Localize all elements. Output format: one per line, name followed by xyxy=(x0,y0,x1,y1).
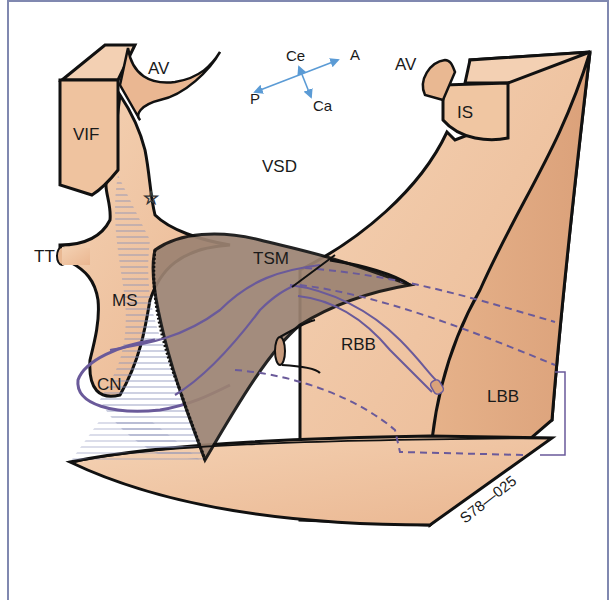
label-rbb: RBB xyxy=(341,335,376,354)
label-tt: TT xyxy=(34,247,55,266)
label-is: IS xyxy=(457,103,473,122)
star-marker-icon: ☆ xyxy=(143,187,159,208)
label-cn: CN xyxy=(97,375,122,394)
tt-stub xyxy=(62,247,90,265)
label-tsm: TSM xyxy=(253,249,289,268)
orientation-compass xyxy=(255,60,338,97)
label-ms: MS xyxy=(112,291,138,310)
is-block-face xyxy=(443,83,508,140)
label-av-left: AV xyxy=(148,59,170,78)
rbb-tube-end xyxy=(275,337,285,365)
orient-ce: Ce xyxy=(286,47,305,64)
label-lbb: LBB xyxy=(487,387,519,406)
orient-ca: Ca xyxy=(313,97,333,114)
orient-p: P xyxy=(250,90,260,107)
label-vif: VIF xyxy=(73,125,99,144)
label-av-right: AV xyxy=(395,55,417,74)
label-vsd: VSD xyxy=(262,157,297,176)
av-left-leaflet xyxy=(120,48,220,120)
orient-a: A xyxy=(350,46,360,63)
axis-ap-arrow xyxy=(255,60,338,92)
